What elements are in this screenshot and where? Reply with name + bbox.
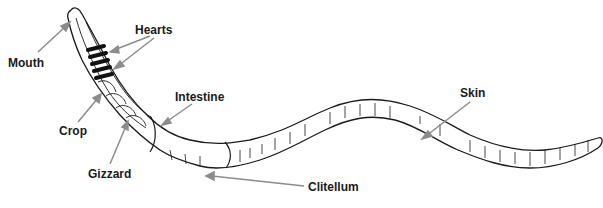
label-clitellum: Clitellum [308, 180, 359, 194]
hearts-arrowhead-icon [110, 46, 119, 53]
label-skin: Skin [460, 86, 485, 100]
clitellum-arrowhead-icon [206, 172, 214, 180]
label-hearts: Hearts [135, 23, 172, 37]
gizzard-arrowhead-icon [122, 121, 128, 130]
label-crop: Crop [59, 124, 87, 138]
label-gizzard: Gizzard [88, 167, 131, 181]
label-mouth: Mouth [8, 56, 44, 70]
earthworm-diagram: Mouth Hearts Intestine Crop Gizzard Clit… [0, 0, 603, 208]
label-intestine: Intestine [175, 90, 224, 104]
